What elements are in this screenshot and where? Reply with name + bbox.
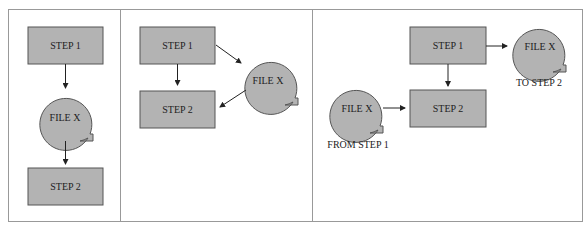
file-x-shape: FILE X — [245, 62, 298, 114]
arrow-file-to-step2 — [220, 90, 246, 107]
step1-box: STEP 1 — [28, 27, 103, 64]
step1-label: STEP 1 — [433, 40, 463, 51]
file-in-shape: FILE X — [330, 90, 383, 142]
arrow-step1-to-file — [216, 45, 241, 63]
panel-2: STEP 1 FILE X STEP 2 — [140, 27, 298, 128]
step2-label: STEP 2 — [50, 181, 80, 192]
file-x-shape: FILE X — [40, 98, 93, 150]
step2-box: STEP 2 — [140, 91, 215, 128]
file-out-label: FILE X — [525, 41, 557, 52]
step1-box: STEP 1 — [410, 27, 486, 64]
file-in-caption: FROM STEP 1 — [327, 139, 388, 150]
step1-label: STEP 1 — [50, 40, 80, 51]
step2-box: STEP 2 — [410, 90, 486, 127]
file-x-label: FILE X — [50, 112, 82, 123]
step2-box: STEP 2 — [28, 168, 103, 205]
step1-label: STEP 1 — [162, 40, 192, 51]
flow-diagrams: STEP 1 FILE X STEP 2 STEP 1 FILE X STEP … — [0, 0, 588, 233]
step2-label: STEP 2 — [162, 104, 192, 115]
file-x-label: FILE X — [253, 75, 285, 86]
file-out-shape: FILE X — [513, 29, 566, 81]
step2-label: STEP 2 — [433, 103, 463, 114]
file-out-caption: TO STEP 2 — [516, 77, 562, 88]
panel-3: STEP 1 FILE X TO STEP 2 FILE X FROM STEP… — [327, 27, 566, 150]
step1-box: STEP 1 — [140, 27, 215, 64]
file-in-label: FILE X — [342, 103, 374, 114]
panel-1: STEP 1 FILE X STEP 2 — [28, 27, 103, 205]
